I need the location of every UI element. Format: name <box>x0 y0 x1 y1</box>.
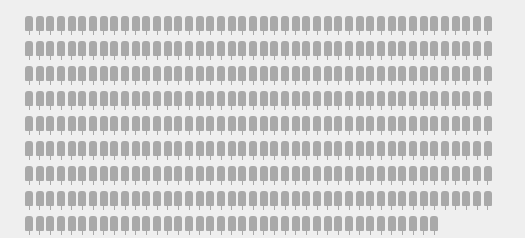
popsicle-icon <box>366 216 374 235</box>
popsicle-icon <box>260 16 268 35</box>
popsicle-icon <box>345 191 353 210</box>
popsicle-icon <box>430 16 438 35</box>
popsicle-icon <box>25 91 33 110</box>
popsicle-icon <box>473 66 481 85</box>
popsicle-icon <box>377 116 385 135</box>
popsicle-icon <box>462 16 470 35</box>
popsicle-icon <box>46 166 54 185</box>
popsicle-icon <box>420 116 428 135</box>
popsicle-icon <box>324 191 332 210</box>
popsicle-icon <box>217 166 225 185</box>
popsicle-icon <box>185 41 193 60</box>
popsicle-icon <box>174 66 182 85</box>
popsicle-icon <box>164 216 172 235</box>
popsicle-icon <box>313 116 321 135</box>
popsicle-icon <box>174 41 182 60</box>
popsicle-icon <box>345 91 353 110</box>
popsicle-icon <box>132 16 140 35</box>
popsicle-icon <box>420 91 428 110</box>
popsicle-icon <box>270 66 278 85</box>
popsicle-icon <box>430 216 438 235</box>
popsicle-icon <box>238 91 246 110</box>
popsicle-icon <box>366 66 374 85</box>
popsicle-icon <box>142 191 150 210</box>
popsicle-icon <box>249 66 257 85</box>
popsicle-icon <box>398 191 406 210</box>
popsicle-icon <box>441 66 449 85</box>
popsicle-icon <box>174 16 182 35</box>
popsicle-icon <box>196 191 204 210</box>
popsicle-icon <box>377 191 385 210</box>
popsicle-icon <box>345 41 353 60</box>
popsicle-icon <box>398 141 406 160</box>
popsicle-icon <box>398 91 406 110</box>
popsicle-icon <box>356 216 364 235</box>
popsicle-icon <box>57 66 65 85</box>
popsicle-icon <box>462 191 470 210</box>
popsicle-icon <box>228 16 236 35</box>
popsicle-icon <box>324 216 332 235</box>
popsicle-icon <box>25 216 33 235</box>
popsicle-icon <box>174 216 182 235</box>
popsicle-icon <box>260 66 268 85</box>
popsicle-icon <box>132 191 140 210</box>
popsicle-icon <box>356 116 364 135</box>
popsicle-icon <box>462 166 470 185</box>
popsicle-icon <box>78 191 86 210</box>
popsicle-icon <box>441 141 449 160</box>
popsicle-icon <box>366 16 374 35</box>
popsicle-icon <box>217 141 225 160</box>
popsicle-icon <box>36 166 44 185</box>
popsicle-icon <box>292 191 300 210</box>
popsicle-icon <box>430 116 438 135</box>
popsicle-icon <box>185 216 193 235</box>
popsicle-icon <box>196 141 204 160</box>
popsicle-icon <box>68 191 76 210</box>
popsicle-icon <box>100 216 108 235</box>
popsicle-icon <box>260 116 268 135</box>
popsicle-icon <box>68 216 76 235</box>
popsicle-icon <box>452 166 460 185</box>
popsicle-icon <box>196 66 204 85</box>
popsicle-icon <box>270 116 278 135</box>
popsicle-icon <box>441 41 449 60</box>
popsicle-icon <box>89 116 97 135</box>
popsicle-icon <box>132 216 140 235</box>
popsicle-icon <box>217 41 225 60</box>
popsicle-icon <box>302 41 310 60</box>
popsicle-icon <box>110 216 118 235</box>
popsicle-icon <box>281 91 289 110</box>
popsicle-icon <box>345 16 353 35</box>
popsicle-icon <box>25 116 33 135</box>
popsicle-icon <box>398 116 406 135</box>
popsicle-icon <box>398 16 406 35</box>
popsicle-icon <box>484 41 492 60</box>
popsicle-icon <box>292 41 300 60</box>
popsicle-icon <box>281 166 289 185</box>
popsicle-icon <box>388 116 396 135</box>
popsicle-icon <box>57 191 65 210</box>
popsicle-icon <box>57 16 65 35</box>
popsicle-icon <box>46 116 54 135</box>
popsicle-icon <box>132 166 140 185</box>
popsicle-icon <box>228 41 236 60</box>
popsicle-icon <box>260 91 268 110</box>
popsicle-icon <box>270 216 278 235</box>
popsicle-icon <box>185 116 193 135</box>
popsicle-icon <box>110 166 118 185</box>
popsicle-icon <box>153 141 161 160</box>
popsicle-icon <box>281 16 289 35</box>
popsicle-icon <box>164 41 172 60</box>
popsicle-icon <box>100 116 108 135</box>
popsicle-icon <box>132 66 140 85</box>
popsicle-icon <box>142 166 150 185</box>
popsicle-icon <box>388 166 396 185</box>
popsicle-icon <box>36 41 44 60</box>
popsicle-icon <box>270 41 278 60</box>
popsicle-icon <box>313 191 321 210</box>
popsicle-icon <box>121 191 129 210</box>
popsicle-icon <box>100 141 108 160</box>
popsicle-icon <box>78 16 86 35</box>
popsicle-icon <box>217 66 225 85</box>
popsicle-icon <box>398 166 406 185</box>
